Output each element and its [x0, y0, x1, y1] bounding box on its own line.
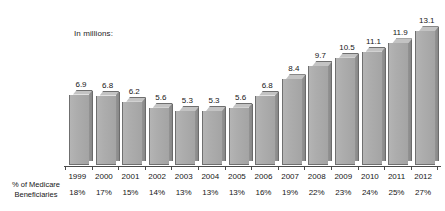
secondary-row-value: 16%: [250, 188, 277, 197]
axis-tick: [358, 166, 359, 170]
secondary-row-value: 13%: [197, 188, 224, 197]
bar-side-face: [195, 107, 199, 161]
bar-side-face: [249, 104, 253, 161]
bar-value-label: 13.1: [412, 16, 442, 25]
bar-value-label: 10.5: [332, 43, 362, 52]
axis-tick: [331, 166, 332, 170]
bar-value-label: 5.6: [146, 93, 176, 102]
bar-value-label: 11.9: [385, 28, 415, 37]
bar-front-face: [388, 43, 408, 165]
bar-side-face: [408, 39, 412, 161]
secondary-row-caption: % of Medicare Beneficiaries: [10, 180, 62, 199]
axis-tick: [145, 166, 146, 170]
bar: [69, 91, 93, 165]
secondary-row-value: 14%: [144, 188, 171, 197]
bar-front-face: [149, 108, 169, 165]
category-label: 1999: [64, 172, 91, 181]
category-label: 2005: [224, 172, 251, 181]
category-label: 2003: [170, 172, 197, 181]
bar: [255, 92, 279, 165]
secondary-row-caption-line1: % of Medicare: [10, 180, 62, 190]
bar: [229, 104, 253, 165]
axis-tick: [278, 166, 279, 170]
bar-side-face: [222, 107, 226, 161]
bar-value-label: 6.2: [119, 87, 149, 96]
category-label: 2001: [117, 172, 144, 181]
secondary-row-value: 19%: [277, 188, 304, 197]
bar: [308, 62, 332, 165]
axis-tick: [411, 166, 412, 170]
bar-front-face: [308, 66, 328, 165]
bar: [335, 54, 359, 165]
secondary-row-value: 24%: [357, 188, 384, 197]
bar-value-label: 11.1: [359, 37, 389, 46]
secondary-row-value: 17%: [91, 188, 118, 197]
category-label: 2006: [250, 172, 277, 181]
axis-tick: [171, 166, 172, 170]
bar-front-face: [229, 108, 249, 165]
bar: [388, 39, 412, 165]
bar-value-label: 9.7: [305, 51, 335, 60]
bar-side-face: [355, 54, 359, 161]
bar-side-face: [302, 75, 306, 161]
secondary-row-value: 23%: [330, 188, 357, 197]
category-label: 2010: [357, 172, 384, 181]
secondary-row-value: 18%: [64, 188, 91, 197]
bar-value-label: 8.4: [279, 64, 309, 73]
bar-side-face: [275, 92, 279, 161]
category-label: 2000: [91, 172, 118, 181]
bar: [96, 92, 120, 165]
category-label: 2011: [383, 172, 410, 181]
category-label: 2012: [410, 172, 437, 181]
axis-tick-end: [437, 166, 438, 170]
bar-chart: In millions: % of Medicare Beneficiaries…: [0, 0, 445, 211]
secondary-row-value: 15%: [117, 188, 144, 197]
bar-front-face: [175, 111, 195, 165]
bar-front-face: [255, 96, 275, 165]
category-label: 2002: [144, 172, 171, 181]
bar-value-label: 5.3: [199, 96, 229, 105]
bar: [415, 27, 439, 165]
bar-front-face: [202, 111, 222, 165]
bar-side-face: [142, 98, 146, 161]
axis-tick: [65, 166, 66, 170]
bar-side-face: [435, 27, 439, 161]
bar-side-face: [382, 48, 386, 161]
bar-front-face: [415, 31, 435, 165]
bar: [175, 107, 199, 165]
bar-value-label: 6.9: [66, 80, 96, 89]
secondary-row-value: 13%: [224, 188, 251, 197]
category-label: 2009: [330, 172, 357, 181]
bar-value-label: 6.8: [252, 81, 282, 90]
bar-front-face: [122, 102, 142, 165]
bar-front-face: [335, 58, 355, 165]
bar-value-label: 6.8: [93, 81, 123, 90]
axis-tick: [198, 166, 199, 170]
category-label: 2004: [197, 172, 224, 181]
axis-tick: [225, 166, 226, 170]
category-label: 2008: [303, 172, 330, 181]
bar-side-face: [116, 92, 120, 161]
bar-front-face: [282, 79, 302, 165]
bar-side-face: [89, 91, 93, 161]
secondary-row-caption-line2: Beneficiaries: [10, 190, 62, 200]
bar: [122, 98, 146, 165]
bar: [362, 48, 386, 165]
bar-front-face: [69, 95, 89, 165]
bar-front-face: [96, 96, 116, 165]
bar: [202, 107, 226, 165]
category-label: 2007: [277, 172, 304, 181]
axis-tick: [118, 166, 119, 170]
bar-side-face: [328, 62, 332, 161]
axis-tick: [384, 166, 385, 170]
secondary-row-value: 27%: [410, 188, 437, 197]
secondary-row-value: 25%: [383, 188, 410, 197]
axis-tick: [92, 166, 93, 170]
bar-front-face: [362, 52, 382, 165]
bar: [282, 75, 306, 165]
secondary-row-value: 13%: [170, 188, 197, 197]
bar-side-face: [169, 104, 173, 161]
axis-tick: [251, 166, 252, 170]
secondary-row-value: 22%: [303, 188, 330, 197]
axis-tick: [304, 166, 305, 170]
